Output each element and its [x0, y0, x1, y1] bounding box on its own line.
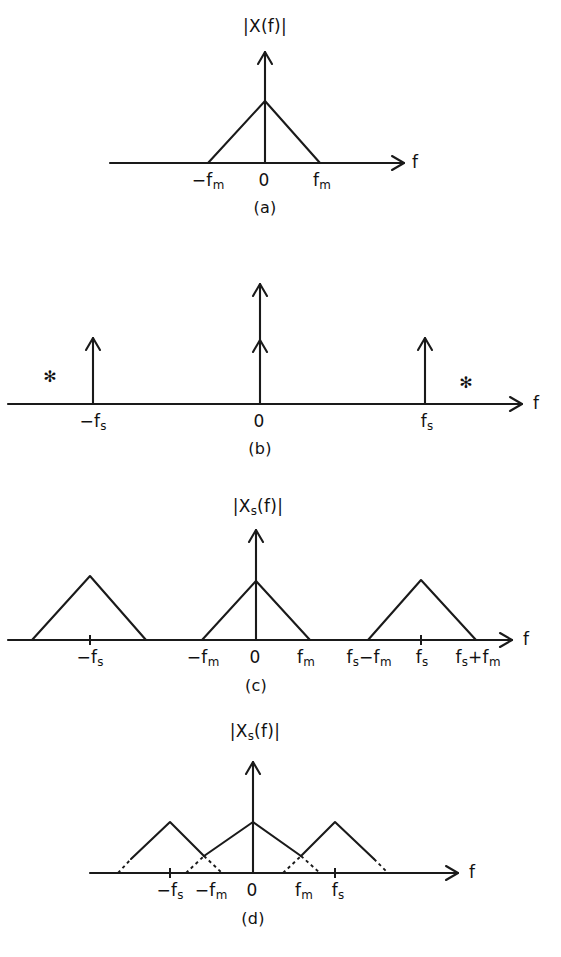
panel-b-tick-label-zero: 0 — [253, 413, 264, 430]
panel-c-caption: (c) — [245, 678, 267, 694]
panel-c-tick-label-zero: 0 — [249, 649, 260, 666]
panel-c-tick-label-fs-minus-fm: fs−fm — [347, 649, 392, 669]
panel-d-title: |Xs(f)| — [230, 723, 280, 743]
panel-d-replica-positive-left-tail — [283, 856, 301, 873]
panel-a-tick-label-pos-fm: fm — [313, 172, 331, 192]
panel-d-tick-label-neg-fm: −fm — [195, 882, 227, 902]
figure-vector-layer — [0, 0, 561, 957]
panel-b-tick-label-neg-fs: −fs — [79, 413, 106, 433]
panel-c-tick-label-neg-fs: −fs — [76, 649, 103, 669]
panel-c-tick-label-fs-plus-fm: fs+fm — [456, 649, 501, 669]
panel-d-axis-label: f — [469, 864, 475, 881]
panel-a-axis-label: f — [412, 154, 418, 171]
panel-d-replica-positive-right-tail — [374, 859, 388, 873]
panel-b-tick-label-pos-fs: fs — [421, 413, 434, 433]
panel-c-tick-label-pos-fm: fm — [297, 649, 315, 669]
panel-d-replica-negative-left-tail — [118, 859, 131, 873]
panel-a-tick-label-zero: 0 — [258, 172, 269, 189]
panel-c-graphics — [8, 530, 512, 647]
panel-b-continuation-marker-left: ✻ — [43, 367, 56, 386]
panel-a-graphics — [110, 52, 404, 170]
panel-b-axis-label: f — [533, 395, 539, 412]
panel-c-replica-positive — [368, 580, 476, 640]
panel-d-tick-label-neg-fs: −fs — [156, 882, 183, 902]
sampling-theorem-figure: |X(f)| f −fm 0 fm (a) ✻ ✻ f −fs 0 fs (b)… — [0, 0, 561, 957]
panel-d-baseband-left-tail — [186, 856, 204, 873]
panel-c-axis-label: f — [523, 631, 529, 648]
panel-c-tick-label-neg-fm: −fm — [187, 649, 219, 669]
panel-a-caption: (a) — [253, 200, 276, 216]
panel-d-baseband-right-tail — [301, 856, 320, 873]
panel-a-tick-label-neg-fm: −fm — [192, 172, 224, 192]
panel-d-graphics — [90, 762, 458, 880]
panel-d-replica-negative-right-tail — [204, 856, 222, 873]
panel-d-tick-label-pos-fs: fs — [332, 882, 345, 902]
panel-d-replica-positive-body — [301, 822, 374, 859]
panel-b-continuation-marker-right: ✻ — [459, 373, 472, 392]
panel-a-title: |X(f)| — [243, 18, 287, 35]
panel-c-replica-negative — [32, 576, 146, 640]
panel-d-tick-label-pos-fm: fm — [295, 882, 313, 902]
panel-d-caption: (d) — [241, 911, 265, 927]
panel-c-title: |Xs(f)| — [233, 498, 283, 518]
panel-b-caption: (b) — [248, 441, 272, 457]
panel-d-tick-label-zero: 0 — [246, 882, 257, 899]
panel-c-tick-label-pos-fs: fs — [416, 649, 429, 669]
panel-b-graphics — [8, 284, 522, 411]
panel-d-replica-negative-body — [131, 822, 204, 859]
